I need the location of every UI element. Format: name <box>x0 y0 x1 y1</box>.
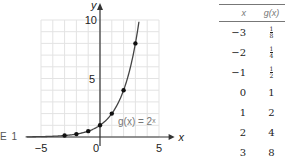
function-label: g(x) = 2ˣ <box>118 116 156 127</box>
cell-gx: 18 <box>256 22 285 43</box>
table-row: −112 <box>219 62 285 82</box>
data-point <box>133 41 137 45</box>
table-row: 38 <box>219 142 285 161</box>
exponential-plot: −505510xyg(x) = 2ˣ <box>0 0 200 161</box>
header-gx: g(x) <box>256 5 285 22</box>
x-axis-arrow-icon <box>169 134 175 140</box>
table-row: −214 <box>219 42 285 62</box>
data-point <box>62 133 66 137</box>
header-x: x <box>219 5 256 22</box>
x-tick-label: 0 <box>93 142 99 154</box>
data-point <box>86 129 90 133</box>
cell-x: 3 <box>219 142 256 161</box>
cell-x: 1 <box>219 102 256 122</box>
data-point <box>121 88 125 92</box>
cell-x: −3 <box>219 22 256 43</box>
cell-gx: 12 <box>256 62 285 82</box>
cell-x: 2 <box>219 122 256 142</box>
x-tick-label: −5 <box>35 142 48 154</box>
cell-x: 0 <box>219 82 256 102</box>
table-row: 12 <box>219 102 285 122</box>
y-axis-label: y <box>90 0 98 11</box>
cell-gx: 1 <box>256 82 285 102</box>
fraction-denominator: 8 <box>270 33 274 39</box>
fraction-denominator: 4 <box>270 53 274 59</box>
data-point <box>98 123 102 127</box>
fraction-denominator: 2 <box>270 73 274 79</box>
y-axis-arrow-icon <box>97 3 103 10</box>
cell-gx: 2 <box>256 102 285 122</box>
cell-x: −2 <box>219 42 256 62</box>
values-table: x g(x) −318−214−11201122438 <box>219 4 285 161</box>
fraction: 18 <box>270 26 274 39</box>
cell-gx: 8 <box>256 142 285 161</box>
table-row: −318 <box>219 22 285 43</box>
fraction: 14 <box>270 46 274 59</box>
x-axis-label: x <box>178 131 185 143</box>
table-header-row: x g(x) <box>219 5 285 22</box>
x-tick-label: 5 <box>156 142 162 154</box>
data-point <box>110 111 114 115</box>
y-tick-label: 5 <box>89 73 95 85</box>
fraction: 12 <box>270 66 274 79</box>
data-point <box>74 132 78 136</box>
table-row: 24 <box>219 122 285 142</box>
axis-labels: −505510xyg(x) = 2ˣ <box>35 0 185 154</box>
cell-gx: 14 <box>256 42 285 62</box>
cell-gx: 4 <box>256 122 285 142</box>
table-body: −318−214−11201122438 <box>219 22 285 162</box>
table-row: 01 <box>219 82 285 102</box>
cell-x: −1 <box>219 62 256 82</box>
y-tick-label: 10 <box>85 14 97 26</box>
